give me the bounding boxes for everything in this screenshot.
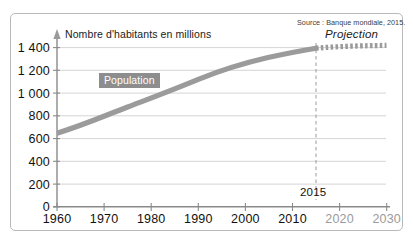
chart-figure: 1 400 1 200 1 000 800 600 400 200 0 1960… [0, 0, 413, 242]
x-tick-label-2010: 2010 [270, 212, 316, 226]
projection-label: Projection [325, 28, 378, 40]
y-tick-label-200: 200 [8, 178, 50, 192]
x-tick-label-1980: 1980 [128, 212, 174, 226]
y-tick-label-800: 800 [8, 109, 50, 123]
y-tick-label-1200: 1 200 [8, 64, 50, 78]
y-tick-label-1000: 1 000 [8, 87, 50, 101]
y-axis-title: Nombre d'habitants en millions [65, 28, 211, 40]
x-tick-label-1990: 1990 [175, 212, 221, 226]
y-tick-label-400: 400 [8, 155, 50, 169]
x-tick-label-1960: 1960 [34, 212, 80, 226]
x-tick-label-2030: 2030 [364, 212, 410, 226]
projection-divider-year-label: 2015 [300, 186, 326, 198]
x-tick-label-1970: 1970 [81, 212, 127, 226]
y-tick-label-600: 600 [8, 132, 50, 146]
x-tick-label-2020: 2020 [317, 212, 363, 226]
x-tick-label-2000: 2000 [222, 212, 268, 226]
source-note: Source : Banque mondiale, 2015. [297, 18, 405, 27]
chart-frame [10, 13, 403, 231]
y-tick-label-1400: 1 400 [8, 41, 50, 55]
series-badge-population: Population [99, 73, 160, 88]
